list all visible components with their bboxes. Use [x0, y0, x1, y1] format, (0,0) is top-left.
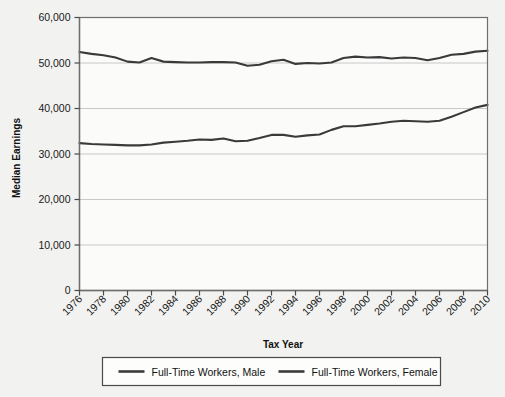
x-tick-label: 1988: [203, 292, 228, 317]
x-tick-label: 2008: [443, 292, 468, 317]
chart-container: 60,00050,00040,00030,00020,00010,0000 19…: [0, 0, 505, 397]
x-tick-label: 1990: [227, 292, 252, 317]
y-tick-label: 20,000: [38, 193, 70, 205]
y-tick-label: 0: [65, 284, 71, 296]
x-axis-ticks: 1976197819801982198419861988199019921994…: [59, 291, 492, 318]
x-tick-label: 2000: [347, 292, 372, 317]
y-axis-title: Median Earnings: [11, 118, 22, 198]
y-tick-label: 10,000: [38, 239, 70, 251]
legend-label-male[interactable]: Full-Time Workers, Male: [152, 366, 266, 378]
x-tick-label: 1996: [299, 292, 324, 317]
y-tick-label: 40,000: [38, 102, 70, 114]
x-tick-label: 1998: [323, 292, 348, 317]
x-tick-label: 1992: [251, 292, 276, 317]
x-tick-label: 1994: [275, 292, 300, 317]
x-tick-label: 2006: [419, 292, 444, 317]
x-tick-label: 2002: [371, 292, 396, 317]
y-tick-label: 30,000: [38, 148, 70, 160]
y-tick-label: 60,000: [38, 11, 70, 23]
x-tick-label: 1978: [83, 292, 108, 317]
x-tick-label: 1976: [59, 292, 84, 317]
x-tick-label: 2004: [395, 292, 420, 317]
line-chart: 60,00050,00040,00030,00020,00010,0000 19…: [0, 0, 505, 397]
x-tick-label: 1982: [131, 292, 156, 317]
chart-legend: Full-Time Workers, MaleFull-Time Workers…: [103, 358, 441, 386]
x-axis-title: Tax Year: [263, 339, 303, 350]
x-tick-label: 1980: [107, 292, 132, 317]
x-tick-label: 1984: [155, 292, 180, 317]
y-tick-label: 50,000: [38, 57, 70, 69]
legend-label-female[interactable]: Full-Time Workers, Female: [312, 366, 438, 378]
x-tick-label: 1986: [179, 292, 204, 317]
x-tick-label: 2010: [467, 292, 492, 317]
y-axis-ticks: 60,00050,00040,00030,00020,00010,0000: [38, 11, 79, 296]
